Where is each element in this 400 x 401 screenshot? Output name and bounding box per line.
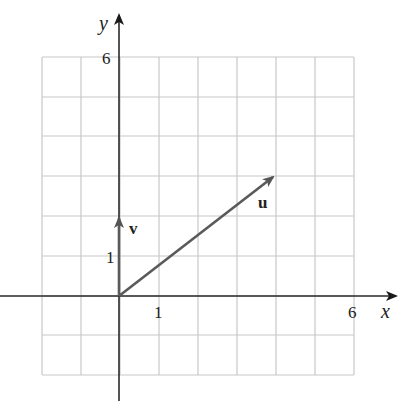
y-tick-1: 1 [106,248,115,267]
vector-u [119,177,273,296]
vector-u-label: u [258,193,267,212]
y-tick-6: 6 [102,49,111,68]
x-tick-6: 6 [348,303,357,322]
grid [42,57,354,375]
vector-diagram: y x 6 1 1 6 u v [0,0,400,401]
x-axis-label: x [380,300,390,322]
y-axis-label: y [97,12,108,35]
vector-v-label: v [129,219,138,238]
x-tick-1: 1 [154,303,163,322]
